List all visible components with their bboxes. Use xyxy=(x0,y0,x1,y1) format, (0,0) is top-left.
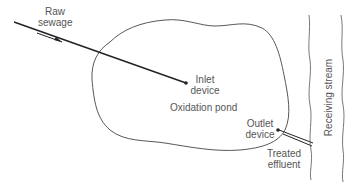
outlet-device-label: Outlet device xyxy=(243,118,277,140)
raw-sewage-label: Raw sewage xyxy=(38,6,72,28)
effluent-line2: effluent xyxy=(264,159,304,170)
inlet-device-label: Inlet device xyxy=(188,74,222,96)
outlet-line1: Outlet xyxy=(243,118,277,129)
treated-effluent-label: Treated effluent xyxy=(264,148,304,170)
inlet-pipe xyxy=(14,22,186,83)
raw-sewage-line2: sewage xyxy=(38,17,72,28)
inlet-line1: Inlet xyxy=(188,74,222,85)
pond-label: Oxidation pond xyxy=(170,102,237,113)
outlet-line2: device xyxy=(243,129,277,140)
outlet-pipe xyxy=(279,130,313,146)
inlet-line2: device xyxy=(188,85,222,96)
effluent-line1: Treated xyxy=(264,148,304,159)
raw-sewage-line1: Raw xyxy=(38,6,72,17)
stream-bank-left xyxy=(309,15,312,180)
stream-bank-right xyxy=(341,15,344,182)
receiving-stream-label: Receiving stream xyxy=(323,58,334,138)
